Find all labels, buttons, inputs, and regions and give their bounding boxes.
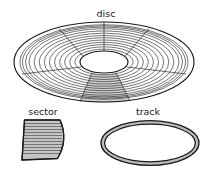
sector-wedge xyxy=(22,120,64,160)
sector-group: sector xyxy=(20,106,64,160)
track-outer-edge xyxy=(101,121,199,166)
diagram-canvas: disc xyxy=(0,0,212,178)
disc-group: disc xyxy=(14,8,194,103)
disc-radial-line xyxy=(127,67,186,74)
disc-hub-hole xyxy=(80,51,128,73)
disc-diagram-figure: disc xyxy=(0,0,212,178)
disc-label: disc xyxy=(97,8,116,19)
sector-label: sector xyxy=(28,106,58,117)
track-inner-edge xyxy=(105,124,196,162)
track-group: track xyxy=(101,106,199,165)
disc-radial-line xyxy=(22,67,81,74)
track-label: track xyxy=(136,106,161,117)
